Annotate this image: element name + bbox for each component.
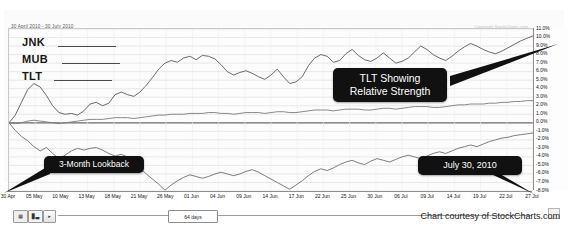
x-axis-tick-label: 05 May — [26, 194, 42, 199]
callout-3-month-lookback: 3-Month Lookback — [44, 156, 144, 173]
legend-swatch-mub — [62, 63, 120, 64]
y-axis-tick-label: 2.0% — [536, 102, 547, 107]
range-slider-thumb[interactable]: 64 days — [168, 210, 218, 223]
x-axis-tick-label: 13 May — [78, 194, 94, 199]
x-axis-tick-label: 04 Jun — [210, 194, 225, 199]
x-axis-tick-label: 21 May — [131, 194, 147, 199]
x-axis-tick-label: 30 Apr — [1, 194, 15, 199]
x-axis-tick-label: 17 Jun — [289, 194, 304, 199]
x-axis-tick-label: 06 Jul — [394, 194, 407, 199]
bars-icon: ▊▃ — [29, 211, 42, 222]
x-axis-tick-label: 09 Jun — [236, 194, 251, 199]
grid-icon: ▦ — [14, 211, 27, 222]
x-axis-tick-label: 22 Jun — [315, 194, 330, 199]
x-axis-tick-label: 14 Jul — [447, 194, 460, 199]
callout-tlt-line1: TLT Showing — [360, 72, 421, 84]
x-axis-tick-label: 10 May — [52, 194, 68, 199]
x-axis-tick-label: 18 May — [105, 194, 121, 199]
y-axis-tick-label: -3.0% — [536, 145, 549, 150]
x-axis-tick-label: 14 Jun — [262, 194, 277, 199]
x-axis-tick-label: 30 Jun — [367, 194, 382, 199]
play-arrow-icon: ▸ — [44, 211, 55, 222]
y-axis-tick-label: 0.0% — [536, 119, 547, 124]
x-axis-tick-label: 25 Jun — [341, 194, 356, 199]
chart-credit: Chart courtesy of StockCharts.com — [420, 211, 560, 221]
legend-label-mub: MUB — [22, 53, 48, 65]
x-axis-tick-label: 26 May — [157, 194, 173, 199]
legend-swatch-tlt — [54, 80, 112, 81]
legend-label-tlt: TLT — [22, 70, 42, 82]
callout-tlt-text: TLT Showing Relative Strength — [350, 72, 431, 99]
legend-swatch-jnk — [58, 46, 116, 47]
callout-tlt-relative-strength: TLT Showing Relative Strength — [333, 68, 447, 102]
y-axis-tick-label: 1.0% — [536, 111, 547, 116]
y-axis-tick-label: -1.0% — [536, 128, 549, 133]
y-axis-tick-label: -2.0% — [536, 136, 549, 141]
legend-label-jnk: JNK — [22, 36, 45, 48]
x-axis-tick-label: 09 Jul — [421, 194, 434, 199]
x-axis-tick-label: 01 Jun — [184, 194, 199, 199]
chart-frame: 30 April 2010 - 30 July 2010 Copyright S… — [4, 10, 564, 182]
grid-icon-button[interactable]: ▦ — [13, 210, 28, 223]
tlt-callout-pointer — [434, 42, 560, 92]
bars-icon-button[interactable]: ▊▃ — [28, 210, 43, 223]
y-axis-tick-label: -4.0% — [536, 153, 549, 158]
callout-end-date: July 30, 2010 — [418, 156, 522, 175]
x-axis: 30 Apr05 May10 May13 May18 May21 May26 M… — [8, 191, 532, 204]
y-axis-tick-label: 11.0% — [536, 26, 550, 31]
y-axis-tick-label: 10.0% — [536, 34, 550, 39]
callout-tlt-line2: Relative Strength — [350, 85, 431, 97]
y-axis-tick-label: 3.0% — [536, 94, 547, 99]
play-arrow-button[interactable]: ▸ — [43, 210, 56, 223]
stockcharts-screenshot: 30 April 2010 - 30 July 2010 Copyright S… — [0, 0, 568, 231]
